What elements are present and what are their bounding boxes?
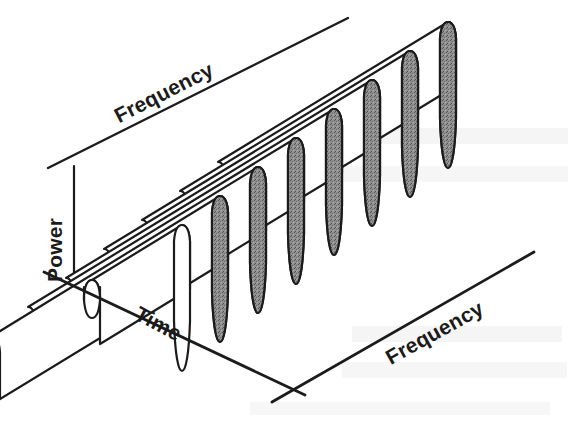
power-axis-label: Power [43,218,66,282]
bleed-smudge-2 [310,166,568,182]
ridge-1-front-face [84,280,100,318]
ridge-6-front-face [364,80,380,226]
figure-root: Power Time Frequency Frequency [0,0,585,433]
waterfall-diagram: Power Time Frequency Frequency [0,0,585,433]
ridge-5-front-face [326,109,342,255]
ridge-8-front-face [440,22,456,168]
bleed-smudge-4 [342,362,567,378]
ridge-4-front-face [288,138,304,284]
ridge-7-front-face [402,51,418,197]
ridge-1-back-cap [174,225,190,371]
bleed-smudge-5 [250,402,550,415]
ridge-2-front-face [212,196,228,342]
ridge-3-front-face [250,167,266,313]
power-axis-label-group: Power [43,218,66,282]
